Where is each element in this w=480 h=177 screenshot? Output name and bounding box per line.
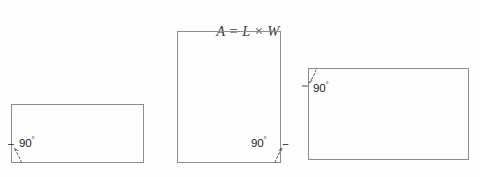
left-rectangle-angle-annotation: 90° [8, 136, 54, 166]
middle-angle-value: 90 [251, 137, 264, 149]
middle-angle-degree-symbol: ° [264, 135, 267, 144]
right-rectangle-angle-annotation: 90° [302, 68, 348, 98]
right-angle-value: 90 [313, 82, 326, 94]
left-rectangle-angle-label: 90° [19, 136, 35, 149]
diagram-canvas: A = L × W 90° 90° [0, 0, 480, 177]
right-rectangle-angle-label: 90° [313, 81, 329, 94]
left-angle-degree-symbol: ° [32, 135, 35, 144]
middle-rectangle-angle-label: 90° [251, 136, 267, 149]
left-angle-value: 90 [19, 137, 32, 149]
middle-rectangle-angle-annotation: 90° [243, 136, 289, 166]
right-angle-degree-symbol: ° [326, 80, 329, 89]
